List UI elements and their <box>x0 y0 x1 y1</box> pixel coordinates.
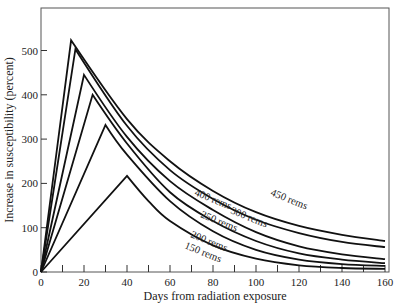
y-tick-label: 500 <box>22 45 39 57</box>
x-tick-label: 120 <box>291 276 308 288</box>
x-tick-label: 160 <box>377 276 394 288</box>
x-tick-label: 20 <box>79 276 91 288</box>
x-tick-label: 100 <box>248 276 265 288</box>
x-tick-label: 80 <box>208 276 220 288</box>
y-tick-label: 200 <box>22 177 39 189</box>
line-chart: 0204060801001201401600100200300400500 45… <box>0 0 398 307</box>
x-tick-label: 140 <box>334 276 351 288</box>
y-tick-label: 0 <box>33 266 39 278</box>
y-tick-label: 400 <box>22 89 39 101</box>
x-axis-title: Days from radiation exposure <box>144 289 287 303</box>
label-450-rems: 450 rems <box>269 187 309 212</box>
y-axis-title: Increase in susceptibility (percent) <box>2 57 16 223</box>
x-tick-label: 0 <box>38 276 44 288</box>
x-tick-label: 60 <box>165 276 177 288</box>
y-tick-label: 100 <box>22 222 39 234</box>
x-tick-label: 40 <box>122 276 134 288</box>
y-tick-label: 300 <box>22 133 39 145</box>
